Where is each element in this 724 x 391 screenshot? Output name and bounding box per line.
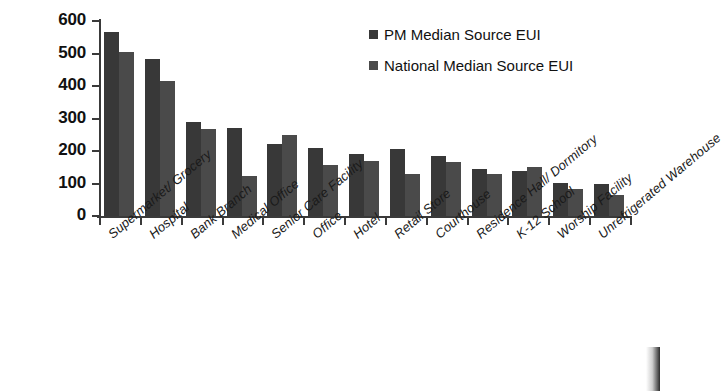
bar-pm-median bbox=[349, 154, 364, 216]
bar-group bbox=[308, 148, 338, 216]
bar-group bbox=[472, 169, 502, 216]
x-axis-tick bbox=[385, 218, 387, 225]
bar-national-median bbox=[487, 174, 502, 216]
legend-swatch-icon bbox=[369, 30, 378, 39]
bar-pm-median bbox=[267, 144, 282, 216]
y-axis-tick-label: 400 bbox=[38, 75, 86, 95]
bar-pm-median bbox=[145, 59, 160, 216]
bar-pm-median bbox=[512, 171, 527, 216]
x-axis-tick bbox=[262, 218, 264, 225]
x-axis-tick bbox=[181, 218, 183, 225]
bar-national-median bbox=[201, 129, 216, 216]
bar-pm-median bbox=[553, 183, 568, 216]
bar-pm-median bbox=[227, 128, 242, 216]
bar-group bbox=[431, 156, 461, 216]
bar-national-median bbox=[242, 176, 257, 216]
bar-national-median bbox=[323, 165, 338, 216]
y-axis-tick-label: 500 bbox=[38, 43, 86, 63]
bar-group bbox=[553, 183, 583, 216]
bar-national-median bbox=[160, 81, 175, 216]
legend-item-pm-median: PM Median Source EUI bbox=[369, 26, 573, 43]
bar-group bbox=[594, 184, 624, 216]
x-axis-tick bbox=[467, 218, 469, 225]
x-axis-tick bbox=[344, 218, 346, 225]
scan-artifact bbox=[646, 347, 660, 391]
bar-group bbox=[512, 167, 542, 216]
x-axis-tick bbox=[222, 218, 224, 225]
bar-group bbox=[349, 154, 379, 216]
bar-group bbox=[145, 59, 175, 216]
x-axis-tick bbox=[630, 218, 632, 225]
bar-group bbox=[390, 149, 420, 216]
bar-national-median bbox=[446, 162, 461, 216]
legend-label: National Median Source EUI bbox=[384, 57, 573, 74]
bar-group bbox=[267, 135, 297, 216]
x-axis-tick bbox=[303, 218, 305, 225]
bar-group bbox=[186, 122, 216, 216]
y-axis-tick-label: 100 bbox=[38, 173, 86, 193]
x-axis-tick bbox=[507, 218, 509, 225]
bar-pm-median bbox=[308, 148, 323, 216]
bar-pm-median bbox=[104, 32, 119, 216]
bar-pm-median bbox=[472, 169, 487, 216]
bar-national-median bbox=[568, 189, 583, 216]
y-axis-tick-label: 300 bbox=[38, 108, 86, 128]
legend-swatch-icon bbox=[369, 61, 378, 70]
bar-national-median bbox=[364, 161, 379, 216]
bar-group bbox=[104, 32, 134, 216]
bar-national-median bbox=[609, 195, 624, 216]
bar-national-median bbox=[405, 174, 420, 216]
x-axis-tick bbox=[99, 218, 101, 225]
y-axis-tick-label: 0 bbox=[38, 205, 86, 225]
x-axis-tick bbox=[426, 218, 428, 225]
legend-item-national-median: National Median Source EUI bbox=[369, 57, 573, 74]
y-axis-tick-label: 200 bbox=[38, 140, 86, 160]
bar-national-median bbox=[282, 135, 297, 216]
bar-pm-median bbox=[390, 149, 405, 216]
x-axis-line bbox=[97, 216, 632, 218]
chart-legend: PM Median Source EUI National Median Sou… bbox=[369, 26, 573, 88]
x-axis-tick bbox=[140, 218, 142, 225]
bar-national-median bbox=[527, 167, 542, 216]
legend-label: PM Median Source EUI bbox=[384, 26, 541, 43]
x-axis-tick bbox=[548, 218, 550, 225]
bar-pm-median bbox=[594, 184, 609, 216]
x-axis-tick bbox=[589, 218, 591, 225]
bar-group bbox=[227, 128, 257, 216]
bar-national-median bbox=[119, 52, 134, 216]
y-axis-tick-label: 600 bbox=[38, 10, 86, 30]
bar-pm-median bbox=[186, 122, 201, 216]
bar-pm-median bbox=[431, 156, 446, 216]
